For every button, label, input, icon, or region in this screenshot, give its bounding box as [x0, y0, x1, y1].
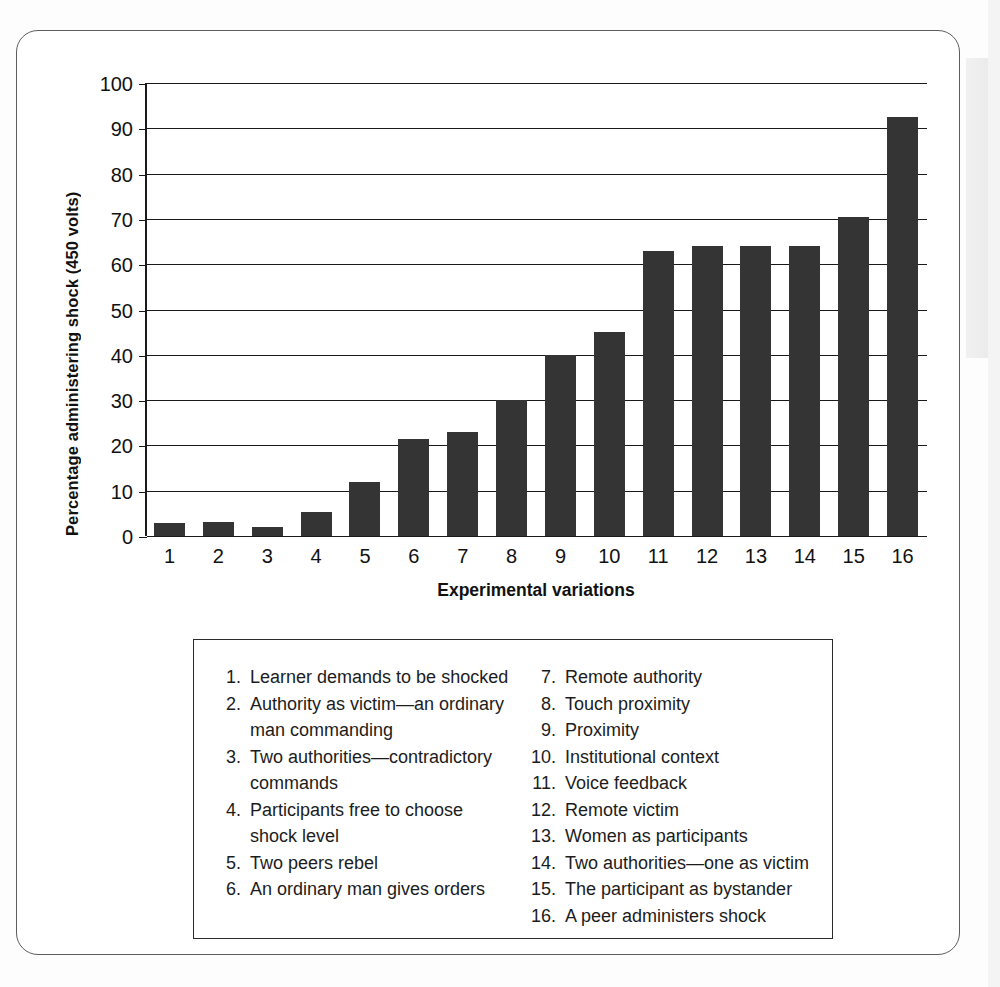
legend-item-number: 16.	[531, 903, 565, 930]
legend-item-label: Remote victim	[565, 797, 832, 824]
bar-10[interactable]	[594, 332, 625, 536]
x-tick-label-16: 16	[891, 545, 913, 568]
legend-column-right: 7.Remote authority8.Touch proximity9.Pro…	[513, 664, 832, 938]
bar-slot-16: 16	[878, 83, 927, 536]
bar-12[interactable]	[692, 246, 723, 536]
legend-item-number: 9.	[531, 717, 565, 744]
bar-slot-4: 4	[292, 83, 341, 536]
legend-item: 2.Authority as victim—an ordinary man co…	[220, 691, 513, 744]
legend-item-label: Learner demands to be shocked	[250, 664, 513, 691]
legend-item-number: 4.	[220, 797, 250, 850]
legend-item: 5.Two peers rebel	[220, 850, 513, 877]
legend-item-label: Institutional context	[565, 744, 832, 771]
x-tick-label-8: 8	[506, 545, 517, 568]
legend-item: 3.Two authorities—contradictory commands	[220, 744, 513, 797]
legend-item-number: 3.	[220, 744, 250, 797]
legend-item-number: 14.	[531, 850, 565, 877]
x-tick-label-9: 9	[555, 545, 566, 568]
legend-item: 16.A peer administers shock	[531, 903, 832, 930]
y-axis-title: Percentage administering shock (450 volt…	[63, 83, 82, 536]
legend-item-label: Authority as victim—an ordinary man comm…	[250, 691, 513, 744]
bar-slot-8: 8	[487, 83, 536, 536]
y-tick-label-30: 30	[111, 390, 133, 413]
legend-item-number: 5.	[220, 850, 250, 877]
x-tick-label-7: 7	[457, 545, 468, 568]
legend-item: 10.Institutional context	[531, 744, 832, 771]
y-tick-label-20: 20	[111, 435, 133, 458]
bar-slot-10: 10	[585, 83, 634, 536]
legend-item-label: A peer administers shock	[565, 903, 832, 930]
bar-slot-2: 2	[194, 83, 243, 536]
x-tick-label-6: 6	[408, 545, 419, 568]
x-tick-label-4: 4	[311, 545, 322, 568]
bar-15[interactable]	[838, 217, 869, 536]
x-tick-label-3: 3	[262, 545, 273, 568]
x-tick-label-10: 10	[598, 545, 620, 568]
x-tick-label-13: 13	[745, 545, 767, 568]
bar-slot-12: 12	[683, 83, 732, 536]
legend-item-label: Proximity	[565, 717, 832, 744]
legend-item: 13.Women as participants	[531, 823, 832, 850]
bar-13[interactable]	[740, 246, 771, 536]
bar-9[interactable]	[545, 355, 576, 536]
legend-item-label: Participants free to choose shock level	[250, 797, 513, 850]
y-tick-label-40: 40	[111, 344, 133, 367]
bar-4[interactable]	[301, 512, 332, 536]
bar-slot-9: 9	[536, 83, 585, 536]
bar-slot-13: 13	[732, 83, 781, 536]
y-tick-label-50: 50	[111, 299, 133, 322]
bar-2[interactable]	[203, 522, 234, 536]
bar-3[interactable]	[252, 527, 283, 536]
legend-box: 1.Learner demands to be shocked2.Authori…	[193, 639, 833, 939]
bar-7[interactable]	[447, 432, 478, 536]
legend-item-number: 10.	[531, 744, 565, 771]
x-tick-label-11: 11	[648, 545, 669, 568]
legend-item: 12.Remote victim	[531, 797, 832, 824]
bar-slot-6: 6	[389, 83, 438, 536]
x-axis-title: Experimental variations	[145, 580, 927, 601]
legend-item: 11.Voice feedback	[531, 770, 832, 797]
y-tick-0	[139, 537, 147, 538]
legend-item-label: Two authorities—one as victim	[565, 850, 832, 877]
chart-plot-area: 0102030405060708090100 12345678910111213…	[145, 83, 927, 536]
bar-6[interactable]	[398, 439, 429, 536]
legend-item-label: Women as participants	[565, 823, 832, 850]
bar-8[interactable]	[496, 400, 527, 536]
legend-item: 6.An ordinary man gives orders	[220, 876, 513, 903]
x-tick-label-2: 2	[213, 545, 224, 568]
legend-item-label: The participant as bystander	[565, 876, 832, 903]
legend-item-number: 11.	[531, 770, 565, 797]
bar-1[interactable]	[154, 523, 185, 536]
legend-item: 8.Touch proximity	[531, 691, 832, 718]
legend-item-number: 6.	[220, 876, 250, 903]
y-tick-label-10: 10	[111, 480, 133, 503]
x-tick-label-15: 15	[843, 545, 865, 568]
legend-item-number: 2.	[220, 691, 250, 744]
bar-slot-7: 7	[438, 83, 487, 536]
bar-14[interactable]	[789, 246, 820, 536]
bar-series: 12345678910111213141516	[145, 83, 927, 536]
legend-item: 7.Remote authority	[531, 664, 832, 691]
legend-item-number: 7.	[531, 664, 565, 691]
bar-slot-5: 5	[341, 83, 390, 536]
x-tick-label-1: 1	[164, 545, 175, 568]
legend-item-number: 13.	[531, 823, 565, 850]
y-tick-label-90: 90	[111, 118, 133, 141]
bar-slot-15: 15	[829, 83, 878, 536]
legend-item-label: Voice feedback	[565, 770, 832, 797]
y-tick-label-70: 70	[111, 208, 133, 231]
legend-item: 9.Proximity	[531, 717, 832, 744]
x-tick-label-12: 12	[696, 545, 718, 568]
bar-5[interactable]	[349, 482, 380, 536]
legend-item: 14.Two authorities—one as victim	[531, 850, 832, 877]
bar-16[interactable]	[887, 117, 918, 536]
legend-item-label: Two authorities—contradictory commands	[250, 744, 513, 797]
y-tick-label-60: 60	[111, 254, 133, 277]
y-tick-label-0: 0	[122, 526, 133, 549]
legend-item-number: 8.	[531, 691, 565, 718]
legend-column-left: 1.Learner demands to be shocked2.Authori…	[194, 664, 513, 938]
bar-11[interactable]	[643, 251, 674, 536]
bar-slot-1: 1	[145, 83, 194, 536]
legend-item-label: Remote authority	[565, 664, 832, 691]
legend-item-number: 15.	[531, 876, 565, 903]
